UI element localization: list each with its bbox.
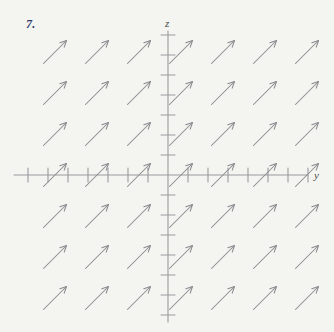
field-arrow <box>86 246 109 269</box>
field-arrow <box>212 41 235 64</box>
arrow-shaft <box>86 287 109 310</box>
arrow-shaft <box>128 123 151 146</box>
field-arrow <box>170 82 193 105</box>
arrow-shaft <box>170 287 193 310</box>
field-arrow <box>86 82 109 105</box>
arrow-shaft <box>86 205 109 228</box>
arrow-shaft <box>212 246 235 269</box>
arrow-shaft <box>296 123 319 146</box>
field-arrow <box>44 246 67 269</box>
field-arrow <box>44 41 67 64</box>
field-arrow <box>296 205 319 228</box>
field-arrow <box>170 205 193 228</box>
arrow-shaft <box>212 287 235 310</box>
field-arrow <box>170 41 193 64</box>
arrow-shaft <box>296 41 319 64</box>
field-arrow <box>212 246 235 269</box>
arrow-shaft <box>212 205 235 228</box>
field-arrow <box>86 41 109 64</box>
field-arrow <box>212 287 235 310</box>
field-arrow <box>254 246 277 269</box>
arrow-shaft <box>170 246 193 269</box>
arrow-shaft <box>170 123 193 146</box>
arrow-shaft <box>44 41 67 64</box>
field-arrow <box>86 287 109 310</box>
field-arrow <box>44 123 67 146</box>
arrow-shaft <box>170 205 193 228</box>
arrow-shaft <box>128 287 151 310</box>
arrow-shaft <box>128 82 151 105</box>
arrow-shaft <box>44 287 67 310</box>
field-arrow <box>254 287 277 310</box>
field-arrow <box>128 287 151 310</box>
field-arrow <box>44 82 67 105</box>
direction-field-diagram: y z <box>0 0 334 332</box>
arrow-shaft <box>86 41 109 64</box>
arrow-shaft <box>44 82 67 105</box>
arrow-shaft <box>170 41 193 64</box>
field-arrow <box>296 41 319 64</box>
field-arrow <box>254 82 277 105</box>
arrow-shaft <box>86 246 109 269</box>
field-arrow <box>296 287 319 310</box>
arrow-shaft <box>128 205 151 228</box>
field-arrow <box>128 41 151 64</box>
field-arrow <box>212 82 235 105</box>
arrow-shaft <box>254 205 277 228</box>
field-arrow <box>128 205 151 228</box>
field-arrow <box>86 205 109 228</box>
arrow-shaft <box>212 41 235 64</box>
field-arrow <box>254 123 277 146</box>
field-arrow <box>212 205 235 228</box>
arrow-shaft <box>212 82 235 105</box>
field-arrow <box>212 123 235 146</box>
axis-label-y: y <box>313 169 319 181</box>
field-arrow <box>86 123 109 146</box>
field-arrow <box>254 205 277 228</box>
arrow-shaft <box>86 82 109 105</box>
arrow-shaft <box>296 205 319 228</box>
field-arrow <box>254 41 277 64</box>
arrow-shaft <box>254 82 277 105</box>
field-arrow <box>170 287 193 310</box>
arrow-shaft <box>128 41 151 64</box>
arrow-shaft <box>254 41 277 64</box>
field-arrow <box>170 123 193 146</box>
field-arrow <box>44 287 67 310</box>
arrow-shaft <box>44 246 67 269</box>
arrow-shaft <box>44 123 67 146</box>
field-arrow <box>170 246 193 269</box>
field-arrow <box>296 82 319 105</box>
arrow-shaft <box>296 287 319 310</box>
field-arrow <box>296 246 319 269</box>
field-arrow <box>296 123 319 146</box>
arrow-shaft <box>44 205 67 228</box>
field-arrow <box>128 82 151 105</box>
arrow-shaft <box>128 246 151 269</box>
axis-label-z: z <box>164 17 170 29</box>
arrow-shaft <box>254 287 277 310</box>
arrow-shaft <box>86 123 109 146</box>
field-arrow <box>44 205 67 228</box>
arrow-shaft <box>212 123 235 146</box>
arrow-shaft <box>170 82 193 105</box>
arrow-shaft <box>296 246 319 269</box>
arrow-shaft <box>296 82 319 105</box>
arrow-shaft <box>254 246 277 269</box>
arrow-shaft <box>254 123 277 146</box>
field-arrow <box>128 246 151 269</box>
field-arrow <box>128 123 151 146</box>
